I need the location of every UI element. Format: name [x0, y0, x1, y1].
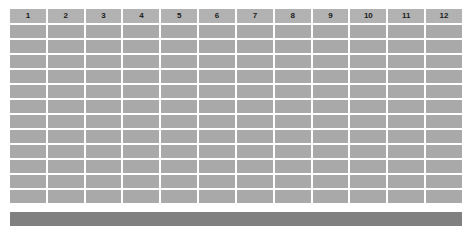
- grid-cell[interactable]: [199, 130, 235, 143]
- grid-cell[interactable]: [388, 25, 424, 38]
- grid-cell[interactable]: [86, 160, 122, 173]
- grid-cell[interactable]: [123, 85, 159, 98]
- column-header-1[interactable]: 1: [10, 9, 46, 23]
- grid-cell[interactable]: [275, 190, 311, 203]
- grid-cell[interactable]: [48, 55, 84, 68]
- grid-cell[interactable]: [388, 175, 424, 188]
- grid-cell[interactable]: [350, 115, 386, 128]
- grid-cell[interactable]: [426, 70, 462, 83]
- grid-cell[interactable]: [275, 25, 311, 38]
- grid-cell[interactable]: [48, 190, 84, 203]
- grid-cell[interactable]: [426, 130, 462, 143]
- grid-cell[interactable]: [86, 25, 122, 38]
- grid-cell[interactable]: [161, 190, 197, 203]
- grid-cell[interactable]: [237, 160, 273, 173]
- grid-cell[interactable]: [275, 70, 311, 83]
- grid-cell[interactable]: [199, 85, 235, 98]
- grid-cell[interactable]: [48, 115, 84, 128]
- grid-cell[interactable]: [313, 130, 349, 143]
- grid-cell[interactable]: [426, 160, 462, 173]
- grid-cell[interactable]: [48, 70, 84, 83]
- grid-cell[interactable]: [123, 25, 159, 38]
- grid-cell[interactable]: [123, 115, 159, 128]
- column-header-8[interactable]: 8: [275, 9, 311, 23]
- grid-cell[interactable]: [48, 25, 84, 38]
- grid-cell[interactable]: [388, 40, 424, 53]
- grid-cell[interactable]: [199, 100, 235, 113]
- grid-cell[interactable]: [313, 70, 349, 83]
- grid-cell[interactable]: [237, 190, 273, 203]
- grid-cell[interactable]: [123, 175, 159, 188]
- grid-cell[interactable]: [237, 130, 273, 143]
- grid-cell[interactable]: [426, 100, 462, 113]
- grid-cell[interactable]: [350, 190, 386, 203]
- column-header-6[interactable]: 6: [199, 9, 235, 23]
- grid-cell[interactable]: [123, 160, 159, 173]
- grid-cell[interactable]: [350, 100, 386, 113]
- grid-cell[interactable]: [350, 175, 386, 188]
- column-header-4[interactable]: 4: [123, 9, 159, 23]
- grid-cell[interactable]: [199, 190, 235, 203]
- grid-cell[interactable]: [161, 85, 197, 98]
- grid-cell[interactable]: [275, 160, 311, 173]
- grid-cell[interactable]: [10, 145, 46, 158]
- grid-cell[interactable]: [199, 25, 235, 38]
- grid-cell[interactable]: [388, 145, 424, 158]
- grid-cell[interactable]: [275, 175, 311, 188]
- grid-cell[interactable]: [10, 175, 46, 188]
- column-header-5[interactable]: 5: [161, 9, 197, 23]
- grid-cell[interactable]: [123, 55, 159, 68]
- grid-cell[interactable]: [10, 100, 46, 113]
- grid-cell[interactable]: [86, 85, 122, 98]
- grid-cell[interactable]: [237, 115, 273, 128]
- grid-cell[interactable]: [388, 160, 424, 173]
- grid-cell[interactable]: [10, 25, 46, 38]
- grid-cell[interactable]: [10, 70, 46, 83]
- grid-cell[interactable]: [237, 25, 273, 38]
- grid-cell[interactable]: [350, 85, 386, 98]
- grid-cell[interactable]: [199, 160, 235, 173]
- grid-cell[interactable]: [426, 40, 462, 53]
- column-header-3[interactable]: 3: [86, 9, 122, 23]
- grid-cell[interactable]: [426, 145, 462, 158]
- grid-cell[interactable]: [123, 70, 159, 83]
- grid-cell[interactable]: [10, 130, 46, 143]
- grid-cell[interactable]: [123, 100, 159, 113]
- grid-cell[interactable]: [313, 40, 349, 53]
- grid-cell[interactable]: [48, 85, 84, 98]
- grid-cell[interactable]: [388, 115, 424, 128]
- grid-cell[interactable]: [388, 55, 424, 68]
- grid-cell[interactable]: [426, 115, 462, 128]
- grid-cell[interactable]: [350, 130, 386, 143]
- grid-cell[interactable]: [313, 190, 349, 203]
- column-header-9[interactable]: 9: [313, 9, 349, 23]
- column-header-10[interactable]: 10: [350, 9, 386, 23]
- grid-cell[interactable]: [199, 55, 235, 68]
- grid-cell[interactable]: [48, 130, 84, 143]
- grid-cell[interactable]: [237, 175, 273, 188]
- grid-cell[interactable]: [86, 55, 122, 68]
- grid-cell[interactable]: [237, 70, 273, 83]
- grid-cell[interactable]: [237, 100, 273, 113]
- grid-cell[interactable]: [86, 100, 122, 113]
- grid-cell[interactable]: [388, 85, 424, 98]
- grid-cell[interactable]: [199, 115, 235, 128]
- grid-cell[interactable]: [388, 70, 424, 83]
- grid-cell[interactable]: [313, 115, 349, 128]
- grid-cell[interactable]: [313, 160, 349, 173]
- grid-cell[interactable]: [313, 100, 349, 113]
- grid-cell[interactable]: [161, 175, 197, 188]
- grid-cell[interactable]: [161, 100, 197, 113]
- grid-cell[interactable]: [10, 55, 46, 68]
- grid-cell[interactable]: [237, 85, 273, 98]
- grid-cell[interactable]: [313, 175, 349, 188]
- grid-cell[interactable]: [123, 145, 159, 158]
- grid-cell[interactable]: [161, 130, 197, 143]
- grid-cell[interactable]: [313, 85, 349, 98]
- grid-cell[interactable]: [86, 70, 122, 83]
- grid-cell[interactable]: [10, 115, 46, 128]
- grid-cell[interactable]: [388, 190, 424, 203]
- grid-cell[interactable]: [388, 130, 424, 143]
- grid-cell[interactable]: [123, 40, 159, 53]
- column-header-11[interactable]: 11: [388, 9, 424, 23]
